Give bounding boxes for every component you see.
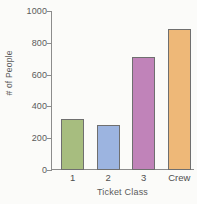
y-axis-tick-label: 0 bbox=[21, 165, 47, 175]
bar bbox=[61, 119, 84, 170]
x-axis-tick-label: Crew bbox=[168, 172, 190, 183]
y-axis-tick-label: 600 bbox=[21, 70, 47, 80]
y-axis-tick-labels: 02004006008001000 bbox=[15, 0, 47, 204]
y-axis-tick-label: 200 bbox=[21, 133, 47, 143]
x-axis-tick-labels: 123Crew bbox=[51, 172, 194, 186]
bar-series bbox=[51, 11, 193, 170]
bar bbox=[168, 29, 191, 171]
y-axis-title: # of People bbox=[4, 33, 14, 113]
plot-area bbox=[51, 11, 193, 170]
x-axis-title: Ticket Class bbox=[51, 187, 194, 197]
y-axis-tick-label: 400 bbox=[21, 101, 47, 111]
bar-chart-figure: # of People 02004006008001000 123Crew Ti… bbox=[0, 0, 197, 204]
x-axis-tick-label: 3 bbox=[141, 172, 146, 183]
bar bbox=[97, 125, 120, 170]
x-axis-tick-label: 2 bbox=[106, 172, 111, 183]
y-axis-tick-label: 1000 bbox=[21, 6, 47, 16]
y-axis-tick-mark bbox=[47, 170, 52, 171]
y-axis-tick-label: 800 bbox=[21, 38, 47, 48]
x-axis-tick-label: 1 bbox=[70, 172, 75, 183]
bar bbox=[132, 57, 155, 170]
